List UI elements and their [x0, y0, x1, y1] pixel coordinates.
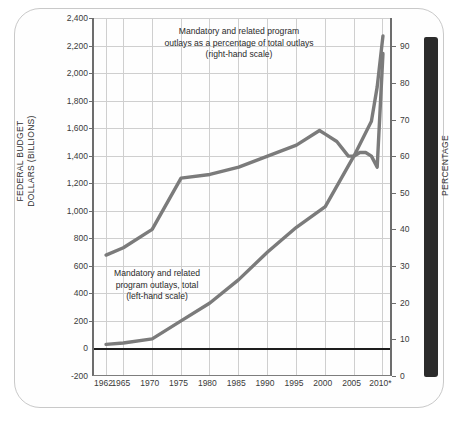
tick-mark — [392, 156, 396, 157]
y-axis-right-tick: 50 — [400, 189, 409, 198]
y-axis-right-tick: 90 — [400, 42, 409, 51]
y-axis-left-tick: 200 — [74, 317, 88, 326]
tick-mark — [392, 120, 396, 121]
y-axis-left-tick: 1,200 — [67, 179, 88, 188]
x-axis-tick-labels: 1962196519701975198019851990199520002005… — [0, 379, 461, 395]
y-axis-right-tick: 20 — [400, 299, 409, 308]
y-axis-title-left: FEDERAL BUDGETDOLLARS (BILLIONS) — [15, 101, 37, 221]
y-axis-left-tick: 2,200 — [67, 42, 88, 51]
tick-mark — [392, 339, 396, 340]
x-axis-tick: 1970 — [140, 379, 159, 388]
x-axis-tick: 1980 — [198, 379, 217, 388]
series-lines — [92, 18, 392, 376]
x-axis-tick: 1985 — [227, 379, 246, 388]
tick-mark — [392, 46, 396, 47]
y-axis-left-tick: 1,600 — [67, 124, 88, 133]
x-axis-tick: 1990 — [256, 379, 275, 388]
x-axis-tick: 2010* — [369, 379, 391, 388]
y-axis-left-tick: 1,000 — [67, 207, 88, 216]
y-axis-left-tick: 2,400 — [67, 14, 88, 23]
annotation-dollars-series: Mandatory and relatedprogram outlays, to… — [86, 268, 228, 303]
y-axis-right-tick: 40 — [400, 225, 409, 234]
x-axis-tick: 1995 — [284, 379, 303, 388]
y-axis-right-tick: 70 — [400, 116, 409, 125]
tick-mark — [392, 193, 396, 194]
x-axis-tick: 1975 — [169, 379, 188, 388]
plot-area — [92, 18, 392, 376]
y-axis-left-tick: 2,000 — [67, 69, 88, 78]
x-axis-tick: 1962 — [94, 379, 113, 388]
y-axis-title-right: PERCENTAGE — [440, 111, 451, 221]
x-axis-tick: 2000 — [313, 379, 332, 388]
tick-mark — [392, 266, 396, 267]
series-line-percentage — [106, 54, 383, 256]
y-axis-right-tick: 60 — [400, 152, 409, 161]
tick-mark — [392, 303, 396, 304]
y-axis-left-tick: 1,400 — [67, 152, 88, 161]
x-axis-tick: 1965 — [111, 379, 130, 388]
y-axis-right-tick: 10 — [400, 335, 409, 344]
tick-mark — [392, 229, 396, 230]
y-axis-left-tick-labels: 2,4002,2002,0001,8001,6001,4001,2001,000… — [44, 18, 88, 376]
annotation-percentage-series: Mandatory and related programoutlays as … — [130, 26, 348, 61]
x-axis-tick: 2005 — [342, 379, 361, 388]
chart-figure: FEDERAL BUDGETDOLLARS (BILLIONS) PERCENT… — [0, 0, 461, 425]
y-axis-right-tick: 80 — [400, 79, 409, 88]
tick-mark — [392, 376, 396, 377]
tick-mark — [392, 83, 396, 84]
y-axis-left-tick: 800 — [74, 234, 88, 243]
y-axis-right-tick: 30 — [400, 262, 409, 271]
y-axis-right-tick-labels: 9080706050403020100 — [400, 18, 430, 376]
y-axis-left-tick: 0 — [83, 344, 88, 353]
y-axis-left-tick: 1,800 — [67, 97, 88, 106]
